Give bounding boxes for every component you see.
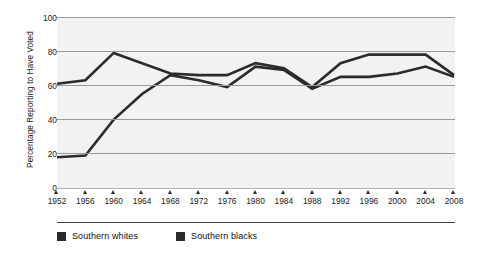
- x-tick-marker-1980: [253, 190, 257, 194]
- x-axis-line: [57, 188, 455, 189]
- x-tick-marker-1992: [338, 190, 342, 194]
- y-tick-label-100: 100: [27, 13, 57, 23]
- y-tick-label-60: 60: [27, 81, 57, 91]
- x-tick-marker-1988: [310, 190, 314, 194]
- plot-area: [57, 17, 455, 188]
- x-tick-marker-2004: [423, 190, 427, 194]
- gridline-60: [57, 85, 455, 86]
- x-tick-marker-1972: [196, 190, 200, 194]
- gridline-40: [57, 119, 455, 120]
- chart-legend: Southern whites Southern blacks: [57, 231, 257, 241]
- legend-item-southern-whites: Southern whites: [57, 231, 138, 241]
- x-tick-marker-1976: [225, 190, 229, 194]
- chart-figure: Percentage Reporting to Have Voted 100 8…: [0, 0, 479, 256]
- legend-label-southern-blacks: Southern blacks: [191, 231, 257, 241]
- y-tick-label-40: 40: [27, 115, 57, 125]
- x-tick-marker-1968: [168, 190, 172, 194]
- legend-divider: [57, 222, 455, 223]
- legend-swatch-icon-southern-blacks: [176, 232, 185, 241]
- x-tick-marker-1960: [111, 190, 115, 194]
- legend-item-southern-blacks: Southern blacks: [176, 231, 257, 241]
- y-tick-label-0: 0: [27, 183, 57, 193]
- x-tick-marker-1964: [139, 190, 143, 194]
- x-tick-marker-1956: [83, 190, 87, 194]
- gridline-80: [57, 51, 455, 52]
- x-tick-label-2008: 2008: [437, 196, 471, 206]
- gridlines: [57, 17, 455, 188]
- x-tick-marker-1996: [366, 190, 370, 194]
- legend-swatch-icon-southern-whites: [57, 232, 66, 241]
- y-tick-label-80: 80: [27, 47, 57, 57]
- x-tick-marker-1984: [281, 190, 285, 194]
- x-tick-marker-2008: [451, 190, 455, 194]
- legend-label-southern-whites: Southern whites: [72, 231, 138, 241]
- x-tick-marker-2000: [395, 190, 399, 194]
- gridline-100: [57, 17, 455, 18]
- y-tick-label-20: 20: [27, 149, 57, 159]
- gridline-20: [57, 153, 455, 154]
- x-tick-marker-1952: [54, 190, 58, 194]
